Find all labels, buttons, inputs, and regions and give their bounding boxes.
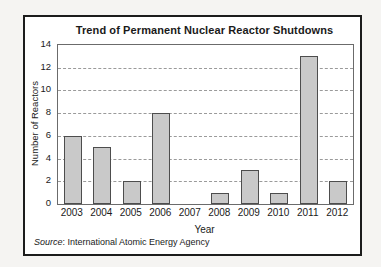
y-tick-labels: 02468101214 [25,44,53,203]
bar-2011 [300,56,318,204]
bar-2009 [241,170,259,204]
x-tick-2012: 2012 [323,207,353,219]
bar-2008 [211,193,229,204]
source-text: : International Atomic Energy Agency [63,237,210,247]
x-tick-2007: 2007 [175,207,205,219]
x-tick-2004: 2004 [87,207,117,219]
source-note: Source: International Atomic Energy Agen… [34,237,210,247]
x-tick-2009: 2009 [234,207,264,219]
bar-2006 [152,113,170,204]
y-tick-6: 6 [46,129,51,141]
source-label: Source [34,237,63,247]
y-tick-12: 12 [40,61,51,73]
y-tick-0: 0 [46,197,51,209]
bar-2005 [123,181,141,204]
bar-2003 [64,136,82,204]
plot-area [57,44,354,205]
y-tick-10: 10 [40,83,51,95]
x-tick-labels: 2003200420052006200720082009201020112012 [57,207,352,219]
bar-2012 [329,181,347,204]
y-tick-14: 14 [40,38,51,50]
y-tick-4: 4 [46,152,51,164]
x-tick-2011: 2011 [293,207,323,219]
y-tick-2: 2 [46,174,51,186]
bars [58,45,353,204]
x-tick-2010: 2010 [264,207,294,219]
chart-title: Trend of Permanent Nuclear Reactor Shutd… [57,24,352,36]
y-tick-8: 8 [46,106,51,118]
chart-frame: Trend of Permanent Nuclear Reactor Shutd… [23,15,362,256]
page: Trend of Permanent Nuclear Reactor Shutd… [0,0,381,267]
x-tick-2008: 2008 [205,207,235,219]
x-tick-2006: 2006 [146,207,176,219]
bar-2010 [270,193,288,204]
x-axis-label: Year [57,224,352,235]
bar-2004 [93,147,111,204]
x-tick-2005: 2005 [116,207,146,219]
x-tick-2003: 2003 [57,207,87,219]
